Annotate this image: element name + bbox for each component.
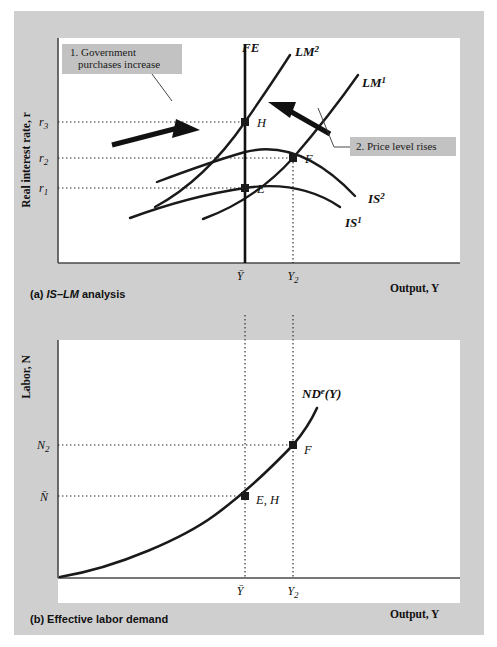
point-F-b: [289, 441, 297, 449]
y-axis-title-b: Labor, N: [20, 354, 32, 398]
point-label-H: H: [256, 116, 267, 130]
panel-a-caption: (a) IS–LM analysis: [30, 288, 125, 300]
panel-a-caption-prefix: (a): [30, 288, 43, 300]
point-label-F: F: [304, 152, 313, 166]
point-EH-b: [241, 492, 249, 500]
annotation-2-line1: 2. Price level rises: [356, 140, 437, 152]
point-F: [289, 154, 297, 162]
y-tick-r2: r2: [39, 151, 49, 167]
curve-label-fe: FE: [241, 40, 260, 55]
x-tick-ybar-a: Ȳ: [237, 269, 245, 283]
panel-b-caption-prefix: (b): [30, 613, 44, 625]
annotation-1-line2: purchases increase: [78, 58, 160, 70]
panel-a-caption-italic: IS–LM: [47, 288, 79, 300]
y-tick-nbar: N̄: [39, 490, 49, 504]
x-axis-title-b: Output, Y: [390, 608, 440, 621]
plot-area-b: [58, 340, 460, 603]
figure-container: H F E FE LM2 LM1 IS2 IS1 1. Government p…: [0, 0, 497, 647]
annotation-1-line1: 1. Government: [70, 46, 136, 58]
panel-a-caption-rest: analysis: [82, 288, 125, 300]
point-E: [241, 184, 249, 192]
y-tick-r3: r3: [39, 115, 49, 131]
x-axis-title-a: Output, Y: [390, 282, 440, 295]
point-label-F-b: F: [303, 443, 312, 457]
y-tick-n2: N2: [36, 438, 50, 454]
panel-b-caption-rest: Effective labor demand: [47, 613, 168, 625]
point-H: [241, 118, 249, 126]
panel-is-lm-analysis: H F E FE LM2 LM1 IS2 IS1 1. Government p…: [0, 0, 497, 320]
point-label-E: E: [256, 182, 265, 196]
y-tick-r1: r1: [39, 181, 48, 197]
is-lm-chart: H F E FE LM2 LM1 IS2 IS1 1. Government p…: [0, 0, 497, 320]
labor-demand-chart: E, H F NDe(Y) N2 N̄ Ȳ Y2 Labor, N Output…: [0, 315, 497, 647]
point-label-EH-b: E, H: [255, 493, 280, 507]
panel-b-caption: (b) Effective labor demand: [30, 613, 168, 625]
y-axis-title-a: Real interest rate, r: [20, 112, 32, 208]
x-tick-y2-a: Y2: [287, 269, 299, 285]
panel-effective-labor-demand: E, H F NDe(Y) N2 N̄ Ȳ Y2 Labor, N Output…: [0, 315, 497, 647]
